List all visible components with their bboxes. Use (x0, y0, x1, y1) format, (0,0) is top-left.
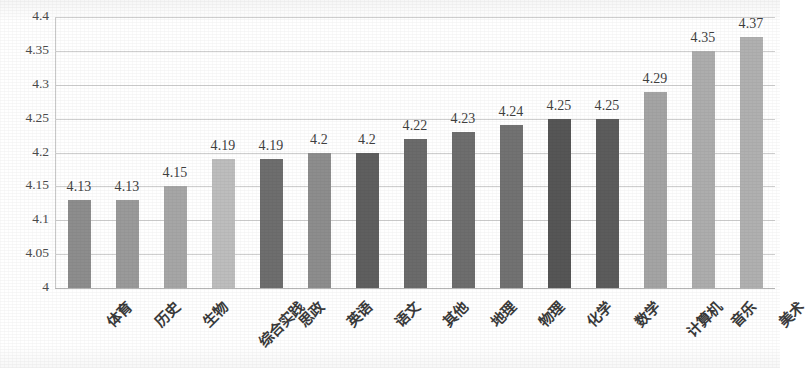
x-axis-category-label: 历史 (149, 296, 184, 331)
y-axis-tick-label: 4.25 (0, 110, 49, 126)
bar (212, 159, 235, 288)
x-axis-category-label: 美术 (773, 296, 808, 331)
x-axis-category-labels: 体育历史生物综合实践思政英语语文其他地理物理化学数学计算机音乐美术 (55, 290, 775, 368)
x-axis-category-label: 英语 (341, 296, 376, 331)
bar (356, 153, 379, 289)
y-axis-tick-label: 4.4 (0, 8, 49, 24)
y-axis-tick-label: 4.3 (0, 76, 49, 92)
y-axis-tick-label: 4.35 (0, 42, 49, 58)
x-axis-category-label: 物理 (533, 296, 568, 331)
bar (116, 200, 139, 288)
x-axis-category-label: 生物 (197, 296, 232, 331)
bar-value-label: 4.25 (577, 98, 637, 114)
bar (164, 186, 187, 288)
x-axis-category-label: 数学 (629, 296, 664, 331)
x-axis-category-label: 计算机 (681, 296, 726, 341)
x-axis-category-label: 体育 (101, 296, 136, 331)
bar (404, 139, 427, 288)
gridline (55, 288, 775, 289)
y-axis-tick-label: 4.2 (0, 144, 49, 160)
x-axis-category-label: 化学 (581, 296, 616, 331)
gridline (55, 51, 775, 52)
y-axis-tick-label: 4.05 (0, 245, 49, 261)
plot-area: 4.134.134.154.194.194.24.24.224.234.244.… (55, 17, 775, 288)
x-axis-category-label: 其他 (437, 296, 472, 331)
y-axis-tick-label: 4 (0, 279, 49, 295)
y-axis-tick-label: 4.1 (0, 211, 49, 227)
y-axis-tick-label: 4.15 (0, 177, 49, 193)
bar (740, 37, 763, 288)
bar (692, 51, 715, 288)
x-axis-category-label: 语文 (389, 296, 424, 331)
x-axis-category-label: 地理 (485, 296, 520, 331)
x-axis-category-label: 音乐 (725, 296, 760, 331)
bar (500, 125, 523, 288)
bar (308, 153, 331, 289)
gridline (55, 17, 775, 18)
bar-value-label: 4.37 (721, 16, 781, 32)
bar (68, 200, 91, 288)
bar (596, 119, 619, 288)
bar-value-label: 4.29 (625, 71, 685, 87)
bar (452, 132, 475, 288)
bar (548, 119, 571, 288)
bar (644, 92, 667, 288)
bar-value-label: 4.15 (145, 165, 205, 181)
bar (260, 159, 283, 288)
